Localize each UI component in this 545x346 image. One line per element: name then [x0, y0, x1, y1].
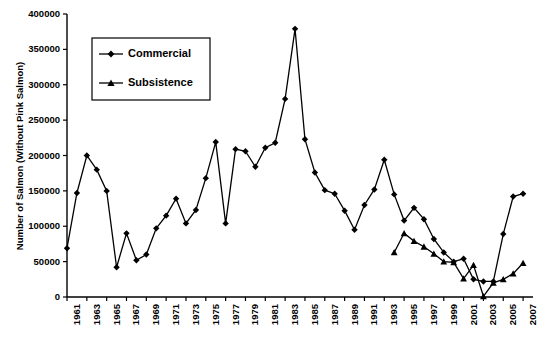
y-tick-label: 100000: [0, 220, 60, 231]
x-tick-label: 1987: [329, 304, 340, 344]
legend-label-subsistence: Subsistence: [128, 76, 193, 88]
salmon-line-chart: Number of Salmon (Without Pink Salmon) 0…: [0, 0, 545, 346]
y-tick-label: 200000: [0, 150, 60, 161]
x-tick-label: 1989: [349, 304, 360, 344]
x-tick-label: 1975: [210, 304, 221, 344]
y-tick-label: 50000: [0, 256, 60, 267]
x-tick-label: 2007: [527, 304, 538, 344]
x-tick-label: 1997: [428, 304, 439, 344]
x-tick-label: 1999: [448, 304, 459, 344]
x-tick-label: 1983: [289, 304, 300, 344]
x-tick-label: 2001: [468, 304, 479, 344]
x-tick-label: 1981: [269, 304, 280, 344]
x-tick-label: 1991: [368, 304, 379, 344]
x-tick-label: 1963: [91, 304, 102, 344]
x-tick-label: 1967: [130, 304, 141, 344]
x-tick-label: 1993: [388, 304, 399, 344]
x-tick-label: 1977: [230, 304, 241, 344]
y-tick-label: 350000: [0, 43, 60, 54]
y-tick-label: 250000: [0, 114, 60, 125]
x-tick-label: 1961: [71, 304, 82, 344]
legend-label-commercial: Commercial: [128, 47, 191, 59]
y-tick-label: 0: [0, 291, 60, 302]
x-tick-label: 2003: [487, 304, 498, 344]
x-tick-label: 1965: [111, 304, 122, 344]
y-tick-label: 400000: [0, 8, 60, 19]
chart-plot-area: [0, 0, 545, 346]
y-tick-label: 300000: [0, 79, 60, 90]
x-tick-label: 1971: [170, 304, 181, 344]
y-tick-label: 150000: [0, 185, 60, 196]
x-tick-label: 1995: [408, 304, 419, 344]
x-tick-label: 1973: [190, 304, 201, 344]
x-tick-label: 1985: [309, 304, 320, 344]
x-tick-label: 2005: [507, 304, 518, 344]
x-tick-label: 1979: [249, 304, 260, 344]
x-tick-label: 1969: [150, 304, 161, 344]
